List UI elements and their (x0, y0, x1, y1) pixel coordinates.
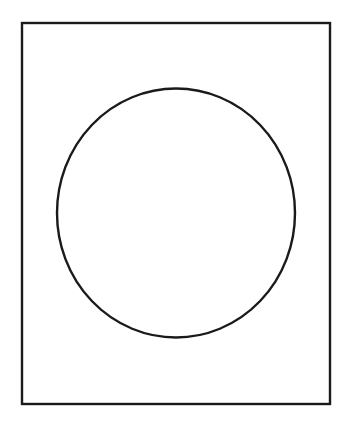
outer-frame-rectangle (22, 23, 330, 404)
drawing-canvas: Circle in a rectangular frame (0, 0, 350, 425)
inner-circle-shape (57, 89, 295, 338)
line-drawing (0, 0, 350, 425)
